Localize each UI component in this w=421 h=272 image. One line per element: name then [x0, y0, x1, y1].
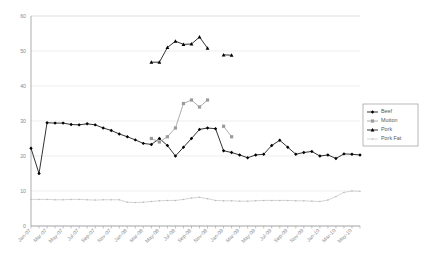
data-point: [230, 135, 233, 138]
data-point: [246, 156, 249, 159]
data-point: [167, 200, 169, 202]
data-point: [302, 151, 305, 154]
data-point: [54, 199, 56, 201]
data-point: [174, 39, 178, 43]
legend-label: Beef: [381, 108, 393, 114]
y-axis-tick-label: 30: [20, 118, 26, 124]
data-point: [223, 200, 225, 202]
data-point: [318, 154, 321, 157]
x-axis-tick-label: Sep-09: [272, 227, 288, 243]
data-point: [77, 123, 80, 126]
data-point: [38, 199, 40, 201]
data-point: [215, 200, 217, 202]
data-point: [102, 199, 104, 201]
data-point: [62, 199, 64, 201]
x-axis-tick-label: Nov-09: [288, 227, 304, 243]
data-point: [174, 126, 177, 129]
chart-container: 0102030405060Jan-07Mar-07May-07Jul-07Sep…: [0, 0, 421, 272]
data-point: [151, 201, 153, 203]
data-point: [198, 105, 201, 108]
x-axis-tick-label: May-09: [240, 227, 257, 244]
data-point: [327, 199, 329, 201]
data-point: [334, 157, 337, 160]
data-point: [303, 200, 305, 202]
data-point: [255, 200, 257, 202]
data-point: [143, 201, 145, 203]
data-point: [102, 126, 105, 129]
y-axis-tick-label: 50: [20, 48, 26, 54]
x-axis-tick-label: Mar-10: [321, 227, 337, 243]
data-point: [30, 199, 32, 201]
x-axis-tick-label: Jul-08: [162, 227, 176, 241]
data-point: [70, 199, 72, 201]
data-point: [263, 200, 265, 202]
series-pork-fat: [30, 190, 361, 203]
y-axis-tick-label: 60: [20, 13, 26, 19]
series-beef: [29, 121, 361, 175]
x-axis-tick-label: Jan-07: [16, 227, 32, 243]
legend-swatch-marker: [372, 138, 374, 140]
data-point: [127, 201, 129, 203]
data-point: [271, 200, 273, 202]
data-point: [343, 192, 345, 194]
data-point: [295, 200, 297, 202]
x-axis-tick-label: May-07: [47, 227, 64, 244]
x-axis-tick-label: Nov-07: [96, 227, 112, 243]
data-point: [85, 122, 88, 125]
x-axis-tick-label: Jul-07: [66, 227, 80, 241]
data-point: [135, 202, 137, 204]
x-axis-tick-label: Mar-09: [224, 227, 240, 243]
data-point: [190, 98, 193, 101]
x-axis-tick-label: Jan-09: [209, 227, 225, 243]
data-point: [53, 121, 56, 124]
data-point: [159, 200, 161, 202]
data-point: [175, 200, 177, 202]
data-point: [335, 196, 337, 198]
data-point: [29, 147, 32, 150]
series-line: [31, 123, 360, 174]
x-axis-tick-label: Mar-07: [32, 227, 48, 243]
y-axis-tick-label: 40: [20, 83, 26, 89]
x-axis-tick-label: May-10: [336, 227, 353, 244]
data-point: [183, 199, 185, 201]
chart-plot: 0102030405060Jan-07Mar-07May-07Jul-07Sep…: [0, 0, 421, 272]
data-point: [134, 138, 137, 141]
data-point: [110, 129, 113, 132]
data-point: [126, 135, 129, 138]
data-point: [222, 125, 225, 128]
data-point: [37, 172, 40, 175]
data-point: [231, 200, 233, 202]
data-point: [287, 200, 289, 202]
data-point: [78, 199, 80, 201]
data-point: [118, 132, 121, 135]
data-point: [359, 191, 361, 193]
series-line: [151, 37, 207, 62]
x-axis-tick-label: Jul-09: [258, 227, 272, 241]
legend-swatch-marker: [371, 119, 374, 122]
data-point: [69, 123, 72, 126]
data-point: [214, 127, 217, 130]
data-point: [61, 121, 64, 124]
data-point: [191, 197, 193, 199]
data-point: [94, 199, 96, 201]
data-point: [198, 35, 202, 39]
x-axis-tick-label: May-08: [144, 227, 161, 244]
data-point: [206, 98, 209, 101]
data-point: [350, 153, 353, 156]
y-axis-tick-label: 20: [20, 153, 26, 159]
x-axis-tick-label: Jan-10: [305, 227, 321, 243]
legend-label: Mutton: [381, 117, 397, 123]
data-point: [206, 126, 209, 129]
data-point: [158, 140, 161, 143]
data-point: [45, 121, 48, 124]
data-point: [351, 190, 353, 192]
data-point: [142, 142, 145, 145]
data-point: [86, 199, 88, 201]
data-point: [279, 200, 281, 202]
data-point: [93, 123, 96, 126]
x-axis-tick-label: Sep-08: [176, 227, 192, 243]
data-point: [311, 200, 313, 202]
x-axis-tick-label: Sep-07: [80, 227, 96, 243]
series-line: [31, 191, 360, 203]
x-axis-tick-label: Jan-08: [113, 227, 129, 243]
